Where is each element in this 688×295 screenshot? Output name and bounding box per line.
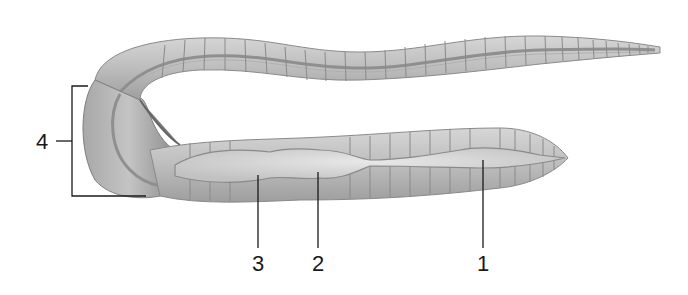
earthworm-illustration bbox=[0, 0, 688, 295]
worm-lower-body bbox=[150, 128, 568, 202]
label-3: 3 bbox=[252, 253, 264, 275]
label-4: 4 bbox=[36, 131, 48, 153]
label-1: 1 bbox=[477, 253, 489, 275]
label-2: 2 bbox=[312, 253, 324, 275]
worm-upper-body bbox=[95, 36, 660, 100]
earthworm-diagram: 1 2 3 4 bbox=[0, 0, 688, 295]
